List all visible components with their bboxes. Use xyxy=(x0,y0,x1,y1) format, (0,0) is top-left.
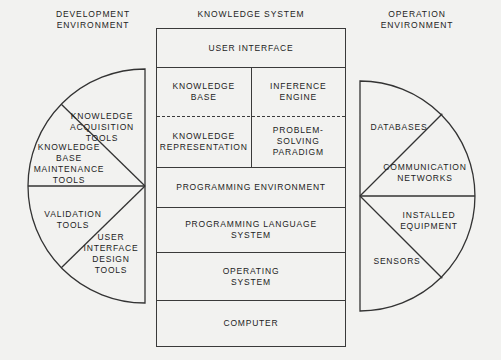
header-development-environment: DEVELOPMENT ENVIRONMENT xyxy=(18,9,168,30)
oper-sector-3-line-1: INSTALLED xyxy=(403,210,456,220)
stack-cell-user-interface: USER INTERFACE xyxy=(157,29,345,67)
stack-row-programming-language-system: PROGRAMMING LANGUAGE SYSTEM xyxy=(157,208,345,253)
stack-row-representation-paradigm: KNOWLEDGE REPRESENTATION PROBLEM- SOLVIN… xyxy=(157,116,345,168)
stack-cell-knowledge-base: KNOWLEDGE BASE xyxy=(157,68,252,116)
oper-sector-1-line-1: DATABASES xyxy=(371,122,428,132)
dev-sector-2-line-3: MAINTENANCE xyxy=(34,164,105,174)
oper-sector-3-line-2: EQUIPMENT xyxy=(400,221,458,231)
diagram-canvas: DEVELOPMENT ENVIRONMENT KNOWLEDGE SYSTEM… xyxy=(0,0,501,360)
oper-sector-installed-equipment: INSTALLED EQUIPMENT xyxy=(400,210,458,231)
oper-sector-4-line-1: SENSORS xyxy=(373,256,420,266)
stack-row-user-interface: USER INTERFACE xyxy=(157,29,345,68)
dev-sector-2-line-2: BASE xyxy=(56,153,82,163)
dev-sector-4-line-4: TOOLS xyxy=(95,265,128,275)
oper-sector-2-line-2: NETWORKS xyxy=(397,173,453,183)
header-knowledge-system: KNOWLEDGE SYSTEM xyxy=(176,9,326,20)
header-operation-environment: OPERATION ENVIRONMENT xyxy=(342,9,492,30)
development-environment-wheel: KNOWLEDGE ACQUISITION TOOLS KNOWLEDGE BA… xyxy=(27,68,157,308)
oper-sector-databases: DATABASES xyxy=(371,122,428,132)
dev-sector-2-line-4: TOOLS xyxy=(53,175,86,185)
dev-sector-4-line-3: DESIGN xyxy=(92,254,129,264)
knowledge-system-stack: USER INTERFACE KNOWLEDGE BASE INFERENCE … xyxy=(156,28,346,347)
dev-sector-4-line-2: INTERFACE xyxy=(84,243,139,253)
oper-sector-2-line-1: COMMUNICATION xyxy=(383,162,466,172)
stack-row-operating-system: OPERATING SYSTEM xyxy=(157,253,345,301)
dev-sector-3-line-1: VALIDATION xyxy=(44,209,101,219)
dev-sector-1-line-2: ACQUISITION xyxy=(70,122,134,132)
stack-cell-operating-system: OPERATING SYSTEM xyxy=(157,253,345,300)
stack-cell-knowledge-representation: KNOWLEDGE REPRESENTATION xyxy=(157,116,252,167)
oper-sector-sensors: SENSORS xyxy=(373,256,420,266)
dev-sector-3-line-2: TOOLS xyxy=(57,220,90,230)
stack-row-computer: COMPUTER xyxy=(157,301,345,346)
stack-cell-inference-engine: INFERENCE ENGINE xyxy=(252,68,346,116)
stack-dashed-separator xyxy=(157,116,345,117)
stack-row-programming-environment: PROGRAMMING ENVIRONMENT xyxy=(157,168,345,208)
stack-cell-programming-language-system: PROGRAMMING LANGUAGE SYSTEM xyxy=(157,208,345,252)
dev-sector-2-line-1: KNOWLEDGE xyxy=(38,142,100,152)
stack-cell-programming-environment: PROGRAMMING ENVIRONMENT xyxy=(157,168,345,207)
dev-sector-4-line-1: USER xyxy=(98,232,125,242)
stack-cell-computer: COMPUTER xyxy=(157,301,345,346)
dev-sector-1-line-1: KNOWLEDGE xyxy=(71,111,133,121)
stack-row-knowledge-inference: KNOWLEDGE BASE INFERENCE ENGINE xyxy=(157,68,345,116)
stack-cell-problem-solving-paradigm: PROBLEM- SOLVING PARADIGM xyxy=(252,116,346,167)
operation-environment-wheel: DATABASES COMMUNICATION NETWORKS INSTALL… xyxy=(359,68,489,328)
